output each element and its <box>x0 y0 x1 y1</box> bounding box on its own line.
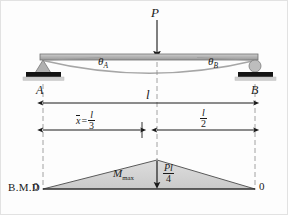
mmax-subscript: max <box>122 174 134 181</box>
support-a-ground <box>23 77 64 80</box>
xbar-denominator: 3 <box>88 120 95 131</box>
dimension-label-half: l 2 <box>200 108 207 129</box>
support-b-ground <box>235 77 276 80</box>
support-b-base <box>238 72 273 77</box>
elastic-curve <box>43 61 255 74</box>
peak-fraction: Pl 4 <box>163 163 174 184</box>
half-denominator: 2 <box>200 118 207 129</box>
beam-bmd-figure: P θA θB A B l x= l 3 l 2 B.M.D 0 0 Mmax <box>0 0 288 215</box>
xbar-equals: = <box>80 116 88 126</box>
load-label-p: P <box>151 6 159 19</box>
half-numerator: l <box>200 108 207 118</box>
xbar-numerator: l <box>88 110 95 120</box>
bmd-mmax-label: Mmax <box>113 168 134 182</box>
theta-b-subscript: B <box>213 61 218 70</box>
bmd-zero-right: 0 <box>259 181 265 192</box>
figure-canvas <box>0 0 288 215</box>
bmd-zero-left: 0 <box>33 181 39 192</box>
bmd-triangle <box>43 160 255 189</box>
dimension-label-span: l <box>146 88 150 101</box>
roller-support-circle <box>249 60 261 72</box>
slope-angle-label-a: θA <box>98 56 108 70</box>
half-fraction: l 2 <box>200 108 207 129</box>
xbar-fraction: l 3 <box>88 110 95 131</box>
mmax-symbol: M <box>113 167 122 179</box>
dimension-label-xbar: x= l 3 <box>76 110 95 131</box>
support-label-a: A <box>36 84 43 96</box>
slope-angle-label-b: θB <box>208 56 218 70</box>
peak-denominator: 4 <box>163 173 174 184</box>
peak-numerator: Pl <box>163 163 174 173</box>
theta-a-subscript: A <box>103 61 108 70</box>
support-label-b: B <box>251 84 258 96</box>
support-a-base <box>26 72 61 77</box>
bmd-peak-value-label: Pl 4 <box>163 163 174 184</box>
